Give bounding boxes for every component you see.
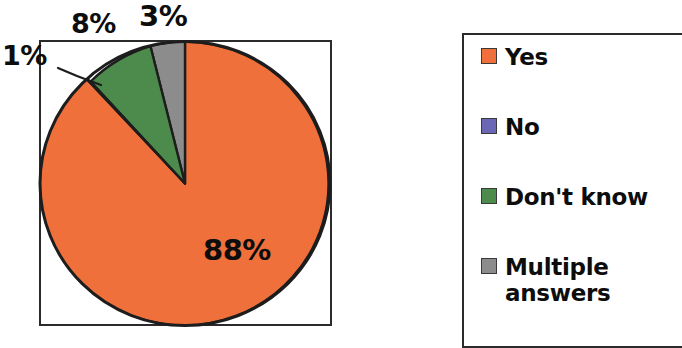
legend-label-dont-know: Don't know — [505, 184, 648, 210]
legend-label-yes: Yes — [505, 44, 548, 70]
legend-swatch-multiple-answers-icon — [481, 258, 497, 274]
legend-label-no: No — [505, 114, 539, 140]
legend-label-multiple-answers: Multiple answers — [505, 254, 610, 306]
data-label-no: 1% — [2, 40, 47, 71]
legend-item-multiple-answers: Multiple answers — [481, 254, 681, 324]
legend-swatch-no-icon — [481, 118, 497, 134]
leader-line-1pct — [55, 58, 135, 103]
data-label-multiple: 3% — [139, 0, 187, 33]
legend-item-no: No — [481, 114, 681, 184]
legend-swatch-dont-know-icon — [481, 188, 497, 204]
legend-item-yes: Yes — [481, 44, 681, 114]
legend: Yes No Don't know Multiple answers — [481, 44, 681, 324]
data-label-dont-know: 8% — [71, 8, 116, 39]
legend-swatch-yes-icon — [481, 48, 497, 64]
legend-item-dont-know: Don't know — [481, 184, 681, 254]
data-label-yes: 88% — [203, 233, 271, 267]
